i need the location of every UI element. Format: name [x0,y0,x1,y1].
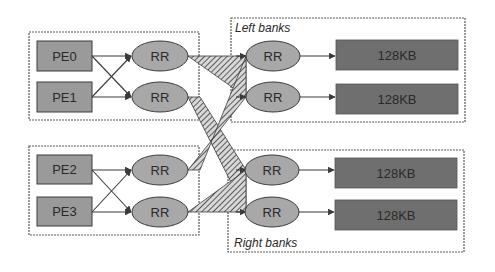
memory-interconnect-diagram: Left banks Right banks PE0 PE1 PE2 PE3 R… [0,0,495,272]
pe-node: PE0 [37,41,92,71]
memory-label: 128KB [376,166,415,181]
router-node: RR [132,197,188,227]
router-node: RR [132,155,188,185]
pe-label: PE0 [52,49,77,64]
pe-label: PE2 [52,162,77,177]
router-node: RR [132,82,188,112]
pe-node: PE1 [37,82,92,112]
memory-label: 128KB [377,48,416,63]
memory-bank: 128KB [335,158,457,188]
pe-label: PE1 [52,90,77,105]
memory-bank: 128KB [336,84,458,114]
left-banks-label: Left banks [235,21,290,35]
router-label: RR [264,90,283,105]
memory-label: 128KB [376,208,415,223]
wedge-rr3-to-right [188,170,246,212]
right-banks-label: Right banks [234,236,297,250]
router-label: RR [264,49,283,64]
router-node: RR [132,41,188,71]
right-bank-router: RR [245,197,299,227]
left-bank-router: RR [246,41,300,71]
left-bank-router: RR [246,82,300,112]
pe-label: PE3 [52,204,77,219]
memory-label: 128KB [377,92,416,107]
memory-bank: 128KB [335,200,457,230]
router-label: RR [151,205,170,220]
router-label: RR [263,163,282,178]
memory-bank: 128KB [336,40,458,70]
pe-node: PE3 [37,197,92,226]
router-label: RR [151,90,170,105]
pe-node: PE2 [37,155,92,184]
router-label: RR [151,49,170,64]
router-label: RR [151,163,170,178]
right-bank-router: RR [245,155,299,185]
router-label: RR [263,205,282,220]
